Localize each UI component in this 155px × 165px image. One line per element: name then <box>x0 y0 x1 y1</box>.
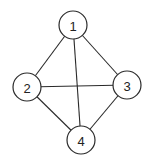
edges-layer <box>27 25 127 140</box>
node-label: 2 <box>23 81 30 96</box>
node-label: 3 <box>123 79 130 94</box>
edge-1-4 <box>73 25 81 140</box>
node-4: 4 <box>67 126 95 154</box>
node-label: 1 <box>69 19 76 34</box>
node-label: 4 <box>77 134 84 149</box>
node-3: 3 <box>113 71 141 99</box>
node-1: 1 <box>59 11 87 39</box>
graph-diagram: 1234 <box>0 0 155 165</box>
node-2: 2 <box>13 73 41 101</box>
